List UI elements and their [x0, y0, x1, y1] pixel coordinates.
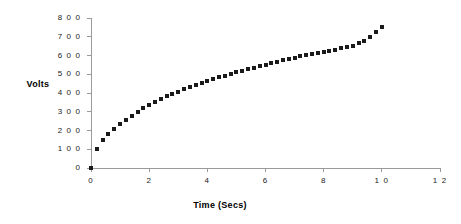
data-point — [101, 138, 105, 142]
data-point — [275, 60, 279, 64]
data-point — [200, 81, 204, 85]
data-point — [264, 63, 268, 67]
data-point — [258, 64, 262, 68]
data-point — [374, 30, 378, 34]
data-point — [118, 122, 122, 126]
data-series-volts — [89, 25, 384, 170]
data-point — [316, 51, 320, 55]
data-point — [368, 35, 372, 39]
chart-container: Volts Time (Secs) 01 0 02 0 03 0 04 0 05… — [0, 0, 461, 224]
data-point — [112, 127, 116, 131]
data-point — [304, 53, 308, 57]
data-point — [182, 87, 186, 91]
tick-marks — [87, 18, 440, 172]
data-point — [339, 46, 343, 50]
data-point — [211, 77, 215, 81]
data-point — [252, 66, 256, 70]
data-point — [234, 70, 238, 74]
data-point — [269, 61, 273, 65]
data-point — [310, 52, 314, 56]
data-point — [130, 114, 134, 118]
data-point — [246, 67, 250, 71]
data-point — [322, 50, 326, 54]
data-point — [194, 83, 198, 87]
data-point — [223, 74, 227, 78]
data-point — [287, 57, 291, 61]
data-point — [345, 45, 349, 49]
data-point — [124, 118, 128, 122]
data-point — [351, 44, 355, 48]
data-point — [205, 79, 209, 83]
data-point — [136, 110, 140, 114]
data-point — [293, 56, 297, 60]
data-point — [333, 48, 337, 52]
data-point — [89, 166, 93, 170]
data-point — [281, 58, 285, 62]
data-point — [327, 49, 331, 53]
data-point — [153, 100, 157, 104]
data-point — [298, 54, 302, 58]
data-point — [176, 90, 180, 94]
data-point — [357, 41, 361, 45]
data-point — [240, 69, 244, 73]
data-point — [229, 72, 233, 76]
plot-area — [0, 0, 461, 224]
data-point — [165, 94, 169, 98]
data-point — [106, 132, 110, 136]
data-point — [141, 106, 145, 110]
data-point — [217, 75, 221, 79]
data-point — [159, 97, 163, 101]
data-point — [188, 85, 192, 89]
data-point — [147, 103, 151, 107]
data-point — [362, 39, 366, 43]
data-point — [380, 25, 384, 29]
data-point — [95, 147, 99, 151]
axis-lines — [91, 18, 440, 168]
data-point — [170, 92, 174, 96]
